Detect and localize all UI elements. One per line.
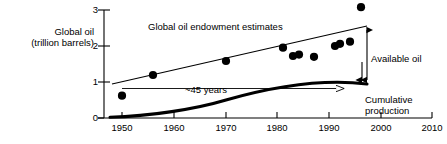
data-point: [346, 38, 354, 46]
data-point: [222, 57, 230, 65]
data-point: [295, 51, 303, 59]
cumulative-production-label: Cumulative production: [365, 94, 439, 116]
data-point: [279, 44, 287, 52]
y-axis-title: Global oil (trillion barrels): [2, 26, 94, 48]
x-tick-label-1950: 1950: [102, 122, 142, 133]
data-point: [336, 40, 344, 48]
x-tick-label-1980: 1980: [257, 122, 297, 133]
y-tick-label-1: 1: [84, 76, 98, 87]
y-axis-title-line1: Global oil: [2, 26, 94, 37]
cumulative-production-label-line2: production: [365, 105, 439, 116]
x-tick-label-2000: 2000: [361, 122, 401, 133]
span-arrow-label: ~45 years: [185, 84, 227, 95]
y-tick-label-0: 0: [84, 112, 98, 123]
y-tick-label-3: 3: [84, 4, 98, 15]
x-tick-label-1970: 1970: [206, 122, 246, 133]
data-point: [149, 71, 157, 79]
series-label: Global oil endowment estimates: [148, 21, 283, 32]
data-point: [310, 53, 318, 61]
x-tick-label-2010: 2010: [412, 122, 447, 133]
available-oil-label: Available oil: [371, 53, 422, 64]
x-tick-label-1960: 1960: [154, 122, 194, 133]
y-tick-label-2: 2: [84, 40, 98, 51]
endowment-data-points: [118, 3, 365, 100]
data-point: [118, 92, 126, 100]
y-axis-title-line2: (trillion barrels): [2, 37, 94, 48]
cumulative-production-label-line1: Cumulative: [365, 94, 439, 105]
x-tick-label-1990: 1990: [309, 122, 349, 133]
data-point: [357, 3, 365, 11]
